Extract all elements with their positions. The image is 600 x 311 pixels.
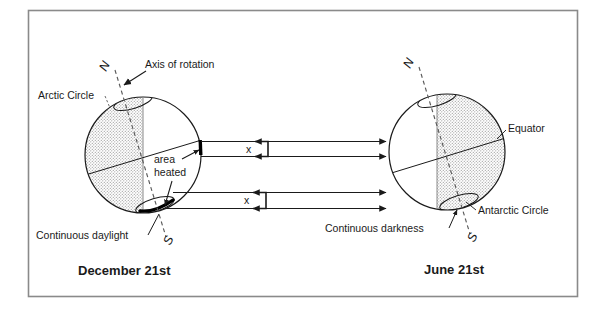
equator-label: Equator (508, 122, 545, 134)
ray-bracket-bottom-label: x (244, 194, 250, 206)
diagram-canvas: N S Axis of rotation Arctic Circle area … (0, 0, 600, 311)
antarctic-circle-label: Antarctic Circle (478, 204, 549, 216)
left-panel-caption: December 21st (78, 263, 171, 278)
arctic-circle-label: Arctic Circle (38, 89, 94, 101)
axis-of-rotation-label: Axis of rotation (145, 58, 215, 70)
continuous-daylight-label: Continuous daylight (36, 229, 128, 241)
area-heated-label-line1: area (154, 153, 175, 165)
area-heated-label-line2: heated (154, 166, 186, 178)
left-area-heated-arc-equator (200, 140, 201, 155)
continuous-darkness-label: Continuous darkness (325, 222, 424, 234)
ray-bracket-top-label: x (246, 143, 252, 155)
right-panel-caption: June 21st (424, 262, 485, 277)
earth-seasons-diagram: N S Axis of rotation Arctic Circle area … (0, 0, 600, 311)
